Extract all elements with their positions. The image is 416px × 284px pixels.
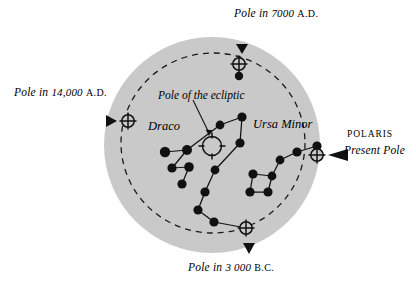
label-pole-3000bc-text: Pole in — [188, 261, 225, 273]
pointer-triangle-down — [243, 243, 255, 254]
label-pole-7000ad-number: 7000 — [271, 7, 294, 19]
precession-diagram: Pole in 7000 A.D. Pole in 14,000 A.D. Po… — [0, 0, 416, 284]
label-polaris: POLARIS — [347, 129, 393, 139]
label-pole-14000ad: Pole in 14,000 A.D. — [14, 87, 107, 99]
label-pole-3000bc: Pole in 3 000 B.C. — [188, 262, 274, 274]
label-pole-3000bc-number: 3 000 — [225, 261, 251, 273]
label-pole-7000ad-era: A.D. — [297, 8, 318, 19]
label-pole-14000ad-text: Pole in — [14, 86, 51, 98]
label-pole-14000ad-number: 14,000 — [51, 86, 82, 98]
label-pole-3000bc-era: B.C. — [254, 262, 274, 273]
label-draco: Draco — [148, 119, 180, 134]
star-near-pole-7000ad — [235, 72, 243, 80]
star-chart-canvas — [0, 0, 416, 284]
label-pole-7000ad-text: Pole in — [234, 7, 271, 19]
label-present-pole: Present Pole — [344, 145, 405, 157]
pole-marker-present — [309, 147, 349, 164]
label-pole-7000ad: Pole in 7000 A.D. — [234, 8, 318, 20]
label-pole-14000ad-era: A.D. — [86, 87, 107, 98]
label-ecliptic-pole: Pole of the ecliptic — [158, 89, 245, 101]
label-ursa-minor: Ursa Minor — [253, 117, 312, 132]
